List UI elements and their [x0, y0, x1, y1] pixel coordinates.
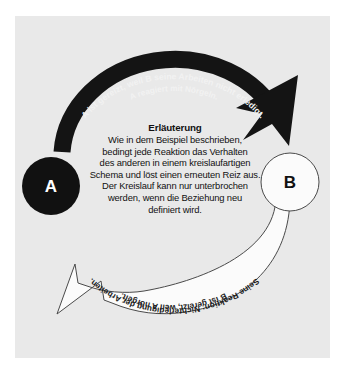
explanation-line-4: Schema und löst einen erneuten Reiz aus. — [84, 169, 266, 181]
explanation-line-5: Der Kreislauf kann nur unterbrochen — [84, 180, 266, 192]
node-a-label: A — [45, 177, 57, 196]
explanation-heading: Erläuterung — [84, 122, 266, 134]
node-b-label: B — [284, 173, 296, 192]
arrow-a-to-b-text-line2: A reagiert mit Nörgeln. — [128, 84, 219, 102]
explanation-line-6: werden, wenn die Beziehung neu — [84, 192, 266, 204]
explanation-block: Erläuterung Wie in dem Beispiel beschrie… — [84, 122, 266, 215]
explanation-line-1: Wie in dem Beispiel beschrieben, — [84, 134, 266, 146]
explanation-line-3: des anderen in einem kreislaufartigen — [84, 157, 266, 169]
explanation-line-2: bedingt jede Reaktion das Verhalten — [84, 146, 266, 158]
explanation-line-7: definiert wird. — [84, 204, 266, 216]
diagram-figure: A ist gereizt, weil B seine Arbeiten nic… — [0, 0, 348, 377]
node-a[interactable]: A — [22, 157, 80, 215]
node-b[interactable]: B — [261, 153, 319, 211]
